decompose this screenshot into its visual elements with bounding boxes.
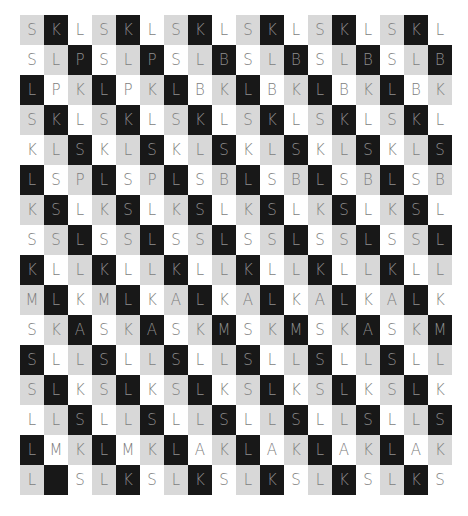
grid-cell: S	[212, 465, 236, 495]
grid-cell: K	[260, 465, 284, 495]
grid-cell: P	[140, 165, 164, 195]
grid-cell: S	[164, 345, 188, 375]
grid-cell: L	[44, 345, 68, 375]
grid-cell: L	[428, 195, 452, 225]
grid-cell: L	[428, 225, 452, 255]
grid-cell: K	[212, 75, 236, 105]
grid-cell: L	[116, 375, 140, 405]
grid-cell: K	[140, 75, 164, 105]
grid-cell: K	[404, 105, 428, 135]
grid-cell: S	[356, 135, 380, 165]
grid-cell: K	[428, 75, 452, 105]
grid-cell: L	[260, 345, 284, 375]
grid-cell: L	[284, 255, 308, 285]
grid-cell: K	[68, 375, 92, 405]
grid-cell: L	[116, 45, 140, 75]
grid-cell: S	[92, 375, 116, 405]
grid-cell: S	[116, 195, 140, 225]
grid-cell: L	[44, 285, 68, 315]
grid-cell: L	[92, 465, 116, 495]
grid-cell: S	[356, 465, 380, 495]
grid-cell: A	[356, 315, 380, 345]
grid-cell: S	[260, 165, 284, 195]
grid-cell: S	[20, 105, 44, 135]
grid-cell: K	[140, 375, 164, 405]
grid-cell: A	[404, 435, 428, 465]
grid-cell: L	[20, 75, 44, 105]
grid-cell: L	[236, 435, 260, 465]
grid-cell: S	[308, 375, 332, 405]
grid-cell: S	[308, 345, 332, 375]
grid-cell: B	[260, 75, 284, 105]
grid-cell: S	[164, 15, 188, 45]
grid-cell: B	[212, 165, 236, 195]
grid-cell: K	[380, 255, 404, 285]
grid-cell: L	[356, 225, 380, 255]
grid-cell: S	[380, 315, 404, 345]
grid-cell: K	[356, 285, 380, 315]
grid-cell: L	[284, 225, 308, 255]
grid-cell: S	[380, 225, 404, 255]
grid-cell: S	[236, 225, 260, 255]
grid-cell: L	[404, 45, 428, 75]
grid-cell: L	[236, 405, 260, 435]
grid-cell: K	[68, 75, 92, 105]
grid-cell: L	[428, 105, 452, 135]
grid-cell: L	[164, 465, 188, 495]
grid-cell: K	[260, 315, 284, 345]
grid-cell: S	[20, 315, 44, 345]
grid-cell: K	[188, 15, 212, 45]
grid-cell: L	[236, 75, 260, 105]
grid-cell: L	[260, 285, 284, 315]
grid-cell: L	[380, 435, 404, 465]
grid-cell: K	[92, 135, 116, 165]
grid-cell: S	[380, 345, 404, 375]
grid-cell: S	[308, 15, 332, 45]
grid-cell: S	[188, 225, 212, 255]
grid-cell: L	[164, 435, 188, 465]
grid-cell: S	[188, 195, 212, 225]
grid-cell: S	[44, 195, 68, 225]
grid-cell: S	[212, 135, 236, 165]
grid-cell: A	[380, 285, 404, 315]
grid-cell: K	[428, 285, 452, 315]
grid-cell: L	[116, 405, 140, 435]
grid-cell	[44, 465, 68, 495]
grid-cell: L	[188, 405, 212, 435]
grid-cell: L	[332, 345, 356, 375]
grid-cell: S	[20, 375, 44, 405]
grid-cell: B	[428, 45, 452, 75]
grid-cell: L	[92, 405, 116, 435]
grid-cell: L	[116, 255, 140, 285]
grid-cell: K	[236, 195, 260, 225]
grid-cell: L	[284, 105, 308, 135]
grid-cell: K	[284, 375, 308, 405]
grid-cell: K	[44, 315, 68, 345]
grid-cell: S	[92, 45, 116, 75]
grid-cell: K	[116, 15, 140, 45]
grid-cell: L	[356, 345, 380, 375]
grid-cell: S	[92, 105, 116, 135]
grid-cell: L	[332, 375, 356, 405]
grid-cell: L	[308, 75, 332, 105]
grid-cell: L	[212, 105, 236, 135]
grid-cell: K	[284, 75, 308, 105]
grid-cell: S	[332, 225, 356, 255]
grid-cell: K	[68, 435, 92, 465]
grid-cell: L	[44, 45, 68, 75]
grid-cell: K	[308, 195, 332, 225]
grid-cell: L	[308, 435, 332, 465]
grid-cell: L	[68, 15, 92, 45]
letter-grid: SKLSKLSKLSKLSKLSKLSLPSLPSLBSLBSLBSLBLPKL…	[20, 15, 452, 495]
grid-cell: K	[260, 105, 284, 135]
grid-cell: B	[356, 165, 380, 195]
grid-cell: B	[356, 45, 380, 75]
grid-cell: K	[116, 105, 140, 135]
grid-cell: L	[68, 345, 92, 375]
grid-cell: L	[20, 165, 44, 195]
grid-cell: L	[260, 135, 284, 165]
grid-cell: S	[284, 405, 308, 435]
grid-cell: L	[284, 345, 308, 375]
grid-cell: K	[380, 135, 404, 165]
grid-cell: L	[212, 255, 236, 285]
